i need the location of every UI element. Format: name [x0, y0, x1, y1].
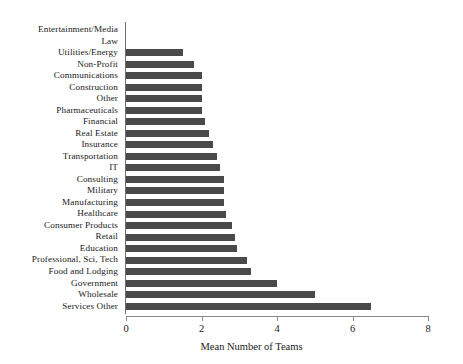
- bar-row: [126, 116, 428, 128]
- bar: [126, 153, 217, 160]
- bar-row: [126, 220, 428, 232]
- plot-area: [126, 24, 428, 312]
- bar-row: [126, 47, 428, 59]
- bar: [126, 222, 232, 229]
- bar: [126, 84, 202, 91]
- bar: [126, 49, 183, 56]
- bar-row: [126, 162, 428, 174]
- x-axis-tick-label: 2: [187, 323, 217, 334]
- category-label: Non-Profit: [0, 59, 122, 71]
- category-label: Consulting: [0, 174, 122, 186]
- bar: [126, 257, 247, 264]
- category-label: Healthcare: [0, 208, 122, 220]
- bar-row: [126, 151, 428, 163]
- bar-row: [126, 93, 428, 105]
- bar-row: [126, 289, 428, 301]
- x-axis-tick: [202, 316, 203, 321]
- x-axis-tick-label: 8: [413, 323, 443, 334]
- bar: [126, 95, 202, 102]
- category-label: Transportation: [0, 151, 122, 163]
- bar: [126, 176, 224, 183]
- bar: [126, 187, 224, 194]
- bar-row: [126, 105, 428, 117]
- x-axis-title: Mean Number of Teams: [0, 341, 463, 352]
- bar-row: [126, 197, 428, 209]
- x-axis-tick-label: 4: [262, 323, 292, 334]
- category-label: Real Estate: [0, 128, 122, 140]
- category-label: Construction: [0, 82, 122, 94]
- bar-row: [126, 59, 428, 71]
- bar-row: [126, 266, 428, 278]
- bar: [126, 118, 205, 125]
- bar: [126, 199, 224, 206]
- category-label: Pharmaceuticals: [0, 105, 122, 117]
- bar: [126, 234, 235, 241]
- bar-row: [126, 185, 428, 197]
- bar-row: [126, 208, 428, 220]
- category-label: Retail: [0, 231, 122, 243]
- category-axis-labels: Entertainment/MediaLawUtilities/EnergyNo…: [0, 24, 122, 312]
- bar: [126, 130, 209, 137]
- bar-row: [126, 277, 428, 289]
- bar-row: [126, 174, 428, 186]
- bar-row: [126, 300, 428, 312]
- bar-row: [126, 24, 428, 36]
- x-axis-tick-label: 6: [338, 323, 368, 334]
- bar-row: [126, 254, 428, 266]
- x-axis-tick-label: 0: [111, 323, 141, 334]
- category-label: Services Other: [0, 300, 122, 312]
- category-label: Financial: [0, 116, 122, 128]
- category-label: Manufacturing: [0, 197, 122, 209]
- category-label: Insurance: [0, 139, 122, 151]
- bar: [126, 245, 237, 252]
- x-axis-tick: [428, 316, 429, 321]
- bar: [126, 211, 226, 218]
- x-axis-tick: [126, 316, 127, 321]
- bar: [126, 303, 371, 310]
- bar: [126, 268, 251, 275]
- bar-row: [126, 70, 428, 82]
- category-label: Law: [0, 36, 122, 48]
- category-label: Education: [0, 243, 122, 255]
- bar-row: [126, 139, 428, 151]
- category-label: Professional, Sci, Tech: [0, 254, 122, 266]
- x-axis-tick: [277, 316, 278, 321]
- category-label: Wholesale: [0, 289, 122, 301]
- category-label: Government: [0, 277, 122, 289]
- category-label: Entertainment/Media: [0, 24, 122, 36]
- category-label: Military: [0, 185, 122, 197]
- bar: [126, 280, 277, 287]
- category-label: Utilities/Energy: [0, 47, 122, 59]
- bar-series: [126, 24, 428, 312]
- category-label: IT: [0, 162, 122, 174]
- category-label: Communications: [0, 70, 122, 82]
- bar: [126, 107, 202, 114]
- bar-chart: Entertainment/MediaLawUtilities/EnergyNo…: [0, 0, 463, 364]
- bar: [126, 61, 194, 68]
- bar: [126, 141, 213, 148]
- bar: [126, 72, 202, 79]
- bar-row: [126, 243, 428, 255]
- category-label: Consumer Products: [0, 220, 122, 232]
- bar: [126, 291, 315, 298]
- bar: [126, 164, 220, 171]
- bar-row: [126, 231, 428, 243]
- bar-row: [126, 128, 428, 140]
- category-label: Food and Lodging: [0, 266, 122, 278]
- category-label: Other: [0, 93, 122, 105]
- bar-row: [126, 36, 428, 48]
- bar-row: [126, 82, 428, 94]
- x-axis-tick: [353, 316, 354, 321]
